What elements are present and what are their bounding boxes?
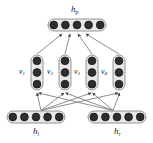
unit-node bbox=[55, 113, 63, 121]
label-v-3: v3 bbox=[74, 68, 80, 77]
node-group-h-r bbox=[88, 111, 146, 123]
unit-node bbox=[102, 113, 110, 121]
label-h-l: hl bbox=[33, 127, 39, 137]
unit-node bbox=[115, 57, 123, 65]
label-v-2: v2 bbox=[47, 68, 53, 77]
unit-node bbox=[96, 21, 104, 29]
unit-node bbox=[90, 113, 98, 121]
edge-hr-to-v4 bbox=[113, 93, 120, 111]
edge-v4-to-hp bbox=[86, 34, 119, 54]
node-group-v-3 bbox=[86, 55, 98, 90]
unit-node bbox=[125, 113, 133, 121]
unit-node bbox=[61, 69, 69, 77]
unit-node bbox=[113, 113, 121, 121]
unit-node bbox=[61, 57, 69, 65]
node-group-h-p bbox=[48, 19, 106, 31]
edges-children-to-parent bbox=[37, 34, 119, 54]
unit-node bbox=[61, 80, 69, 88]
unit-node bbox=[21, 113, 29, 121]
unit-node bbox=[33, 69, 41, 77]
node-group-h-l bbox=[7, 111, 65, 123]
edge-v2-to-hp bbox=[65, 34, 70, 54]
node-group-v-4 bbox=[113, 55, 125, 90]
unit-node bbox=[88, 69, 96, 77]
edges-leaves-to-children bbox=[37, 93, 120, 111]
unit-node bbox=[62, 21, 70, 29]
unit-node bbox=[136, 113, 144, 121]
edge-v3-to-hp bbox=[78, 34, 92, 54]
edge-v1-to-hp bbox=[37, 34, 62, 54]
node-group-v-2 bbox=[59, 55, 71, 90]
unit-node bbox=[88, 57, 96, 65]
unit-node bbox=[50, 21, 58, 29]
unit-node bbox=[88, 80, 96, 88]
edge-hl-to-v1 bbox=[37, 93, 41, 111]
unit-node bbox=[44, 113, 52, 121]
unit-node bbox=[33, 57, 41, 65]
unit-node bbox=[115, 69, 123, 77]
unit-node bbox=[9, 113, 17, 121]
unit-node bbox=[32, 113, 40, 121]
label-v-1: v1 bbox=[19, 68, 25, 77]
label-h-p: hp bbox=[71, 5, 78, 15]
node-group-v-1 bbox=[31, 55, 43, 90]
label-h-r: hr bbox=[114, 127, 121, 137]
unit-node bbox=[115, 80, 123, 88]
unit-node bbox=[33, 80, 41, 88]
unit-node bbox=[73, 21, 81, 29]
label-v-4: v4 bbox=[101, 68, 107, 77]
unit-node bbox=[85, 21, 93, 29]
